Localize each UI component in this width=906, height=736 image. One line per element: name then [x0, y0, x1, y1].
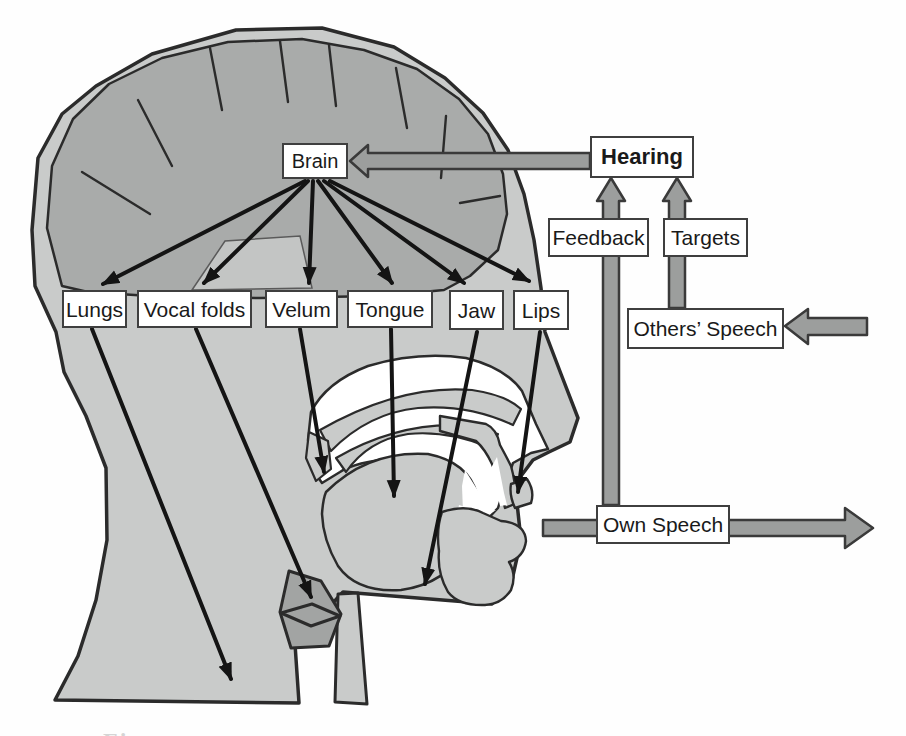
brain-box: Brain [282, 143, 348, 179]
velum-label: Velum [272, 299, 330, 320]
others-speech-input-arrow [785, 309, 867, 344]
lungs-label: Lungs [66, 299, 123, 320]
brain-label: Brain [292, 151, 339, 171]
lips-label: Lips [522, 300, 561, 321]
feedback-label: Feedback [552, 227, 644, 248]
figure-caption-partial: Figure [103, 723, 433, 736]
feedback-box: Feedback [548, 218, 649, 257]
hearing-box: Hearing [590, 136, 694, 178]
others-speech-box: Others’ Speech [627, 308, 784, 349]
lower-lip-chin-shape [438, 508, 526, 605]
jaw-label: Jaw [458, 300, 495, 321]
head-diagram-artwork [0, 0, 906, 736]
articulator-box-lungs: Lungs [62, 290, 127, 328]
own-speech-box: Own Speech [596, 505, 730, 544]
articulator-box-lips: Lips [513, 290, 569, 330]
own-speech-label: Own Speech [603, 514, 723, 535]
targets-label: Targets [671, 227, 740, 248]
lip-front-shape [511, 479, 533, 508]
others-speech-label: Others’ Speech [634, 318, 778, 339]
targets-box: Targets [663, 218, 748, 257]
hearing-label: Hearing [601, 146, 683, 168]
vocal-folds-label: Vocal folds [144, 299, 246, 320]
articulator-box-tongue: Tongue [347, 290, 433, 328]
articulator-box-velum: Velum [265, 290, 338, 328]
articulator-box-vocal-folds: Vocal folds [137, 290, 252, 328]
articulator-box-jaw: Jaw [449, 290, 504, 330]
speech-production-figure: Brain Hearing Feedback Targets Others’ S… [0, 0, 906, 736]
tongue-label: Tongue [356, 299, 425, 320]
